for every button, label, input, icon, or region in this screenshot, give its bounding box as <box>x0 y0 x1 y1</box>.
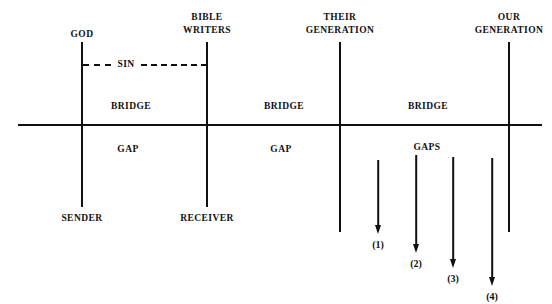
region-label-gap-2: GAP <box>270 143 291 155</box>
column-top-label-god: GOD <box>71 28 94 40</box>
region-label-bridge-1: BRIDGE <box>111 100 151 112</box>
column-top-label-their-generation: THEIR GENERATION <box>306 11 375 36</box>
column-top-label-our-generation-line2: GENERATION <box>475 24 544 37</box>
gap-arrow-3-head <box>450 259 456 268</box>
gap-arrow-2-label: (2) <box>410 258 422 269</box>
gap-arrow-3-shaft <box>452 157 454 259</box>
column-line-their-generation <box>339 42 341 232</box>
gap-arrow-4-head <box>489 277 495 286</box>
horizontal-axis-line <box>18 124 542 126</box>
gap-arrow-3-label: (3) <box>447 273 459 284</box>
gap-arrow-4-label: (4) <box>486 291 498 302</box>
region-label-bridge-2: BRIDGE <box>264 100 304 112</box>
column-line-god <box>81 42 83 207</box>
sin-dashed-line-left <box>83 64 111 66</box>
sin-label: SIN <box>117 58 134 70</box>
column-top-label-bible-writers: BIBLE WRITERS <box>183 11 231 36</box>
region-label-gap-1: GAP <box>117 143 138 155</box>
gap-arrow-4 <box>487 158 497 286</box>
region-label-bridge-3: BRIDGE <box>408 100 448 112</box>
column-top-label-bible-writers-line2: WRITERS <box>183 24 231 37</box>
column-top-label-our-generation-line1: OUR <box>475 11 544 24</box>
region-label-gaps-3: GAPS <box>413 141 440 153</box>
gap-arrow-2 <box>411 155 421 253</box>
gap-arrow-3 <box>448 157 458 268</box>
column-top-label-bible-writers-line1: BIBLE <box>183 11 231 24</box>
gap-arrow-1 <box>373 160 383 234</box>
column-bottom-label-sender: SENDER <box>61 212 102 224</box>
gap-arrow-4-shaft <box>491 158 493 277</box>
column-top-label-their-generation-line2: GENERATION <box>306 24 375 37</box>
gap-arrow-2-head <box>413 244 419 253</box>
column-line-our-generation <box>508 42 510 232</box>
communication-gap-diagram: GOD BIBLE WRITERS THEIR GENERATION OUR G… <box>0 0 552 304</box>
gap-arrow-1-shaft <box>377 160 379 225</box>
column-top-label-our-generation: OUR GENERATION <box>475 11 544 36</box>
column-top-label-their-generation-line1: THEIR <box>306 11 375 24</box>
column-bottom-label-receiver: RECEIVER <box>180 212 234 224</box>
gap-arrow-1-head <box>375 225 381 234</box>
column-line-bible-writers <box>206 42 208 207</box>
gap-arrow-2-shaft <box>415 155 417 244</box>
gap-arrow-1-label: (1) <box>372 239 384 250</box>
sin-dashed-line-right <box>141 64 207 66</box>
